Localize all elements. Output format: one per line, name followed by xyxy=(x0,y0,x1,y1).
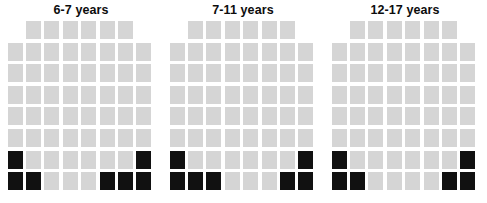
waffle-cell-empty xyxy=(332,43,347,61)
waffle-cell-empty xyxy=(460,129,475,147)
panel-title: 12-17 years xyxy=(370,3,439,17)
waffle-cell-empty xyxy=(225,86,240,104)
waffle-cell-empty xyxy=(170,86,185,104)
waffle-cell-empty xyxy=(63,43,78,61)
waffle-cell-empty xyxy=(225,107,240,125)
waffle-cell-empty xyxy=(188,151,203,169)
waffle-cell-empty xyxy=(118,21,133,39)
waffle-cell-empty xyxy=(44,129,59,147)
waffle-cell-empty xyxy=(298,64,313,82)
waffle-cell-empty xyxy=(368,107,383,125)
waffle-cell-filled xyxy=(442,172,457,190)
waffle-cell-empty xyxy=(262,64,277,82)
waffle-cell-empty xyxy=(460,107,475,125)
waffle-cell-empty xyxy=(188,43,203,61)
waffle-cell-empty xyxy=(280,43,295,61)
waffle-cell-filled xyxy=(100,172,115,190)
waffle-grid xyxy=(8,21,155,198)
waffle-cell-empty xyxy=(442,129,457,147)
waffle-cell-empty xyxy=(387,107,402,125)
waffle-cell-empty xyxy=(26,43,41,61)
waffle-cell-empty xyxy=(8,107,23,125)
waffle-cell-empty xyxy=(368,64,383,82)
waffle-cell-empty xyxy=(26,21,41,39)
waffle-cell-empty xyxy=(387,86,402,104)
waffle-cell-empty xyxy=(442,151,457,169)
waffle-cell-empty xyxy=(81,129,96,147)
waffle-cell-empty xyxy=(442,21,457,39)
waffle-cell-filled xyxy=(350,172,365,190)
waffle-panel-2: 12-17 years xyxy=(324,0,486,203)
waffle-cell-filled xyxy=(170,172,185,190)
waffle-cell-empty xyxy=(350,151,365,169)
waffle-cell-empty xyxy=(118,129,133,147)
waffle-cell-empty xyxy=(26,151,41,169)
waffle-cell-empty xyxy=(188,21,203,39)
waffle-cell-empty xyxy=(405,43,420,61)
waffle-cell-filled xyxy=(460,172,475,190)
waffle-cell-empty xyxy=(118,151,133,169)
waffle-cell-empty xyxy=(424,21,439,39)
waffle-cell-empty xyxy=(405,64,420,82)
waffle-cell-empty xyxy=(332,129,347,147)
waffle-cell-empty xyxy=(118,43,133,61)
waffle-cell-empty xyxy=(170,64,185,82)
waffle-cell-filled xyxy=(298,151,313,169)
waffle-cell-empty xyxy=(136,64,151,82)
waffle-cell-empty xyxy=(350,107,365,125)
waffle-cell-empty xyxy=(100,151,115,169)
waffle-cell-empty xyxy=(424,86,439,104)
waffle-cell-empty xyxy=(188,86,203,104)
waffle-cell-empty xyxy=(405,129,420,147)
waffle-cell-empty xyxy=(424,151,439,169)
waffle-cell-empty xyxy=(81,107,96,125)
waffle-cell-filled xyxy=(136,151,151,169)
waffle-cell-empty xyxy=(118,64,133,82)
waffle-cell-empty xyxy=(298,129,313,147)
waffle-cell-empty xyxy=(225,43,240,61)
waffle-cell-empty xyxy=(243,64,258,82)
waffle-cell-empty xyxy=(81,43,96,61)
waffle-cell-empty xyxy=(243,86,258,104)
waffle-cell-empty xyxy=(405,21,420,39)
waffle-cell-empty xyxy=(332,86,347,104)
waffle-cell-empty xyxy=(387,172,402,190)
waffle-cell-empty xyxy=(44,21,59,39)
waffle-cell-empty xyxy=(262,21,277,39)
waffle-cell-empty xyxy=(368,172,383,190)
waffle-cell-empty xyxy=(188,129,203,147)
waffle-panel-1: 7-11 years xyxy=(162,0,324,203)
waffle-cell-filled xyxy=(8,151,23,169)
waffle-cell-empty xyxy=(100,64,115,82)
waffle-cell-empty xyxy=(170,107,185,125)
waffle-cell-empty xyxy=(280,129,295,147)
waffle-cell-empty xyxy=(387,151,402,169)
waffle-cell-empty xyxy=(262,43,277,61)
waffle-cell-empty xyxy=(225,172,240,190)
waffle-cell-empty xyxy=(136,107,151,125)
waffle-cell-empty xyxy=(44,151,59,169)
waffle-cell-filled xyxy=(188,172,203,190)
waffle-cell-empty xyxy=(405,151,420,169)
waffle-cell-empty xyxy=(243,151,258,169)
waffle-cell-filled xyxy=(280,172,295,190)
waffle-cell-empty xyxy=(136,43,151,61)
waffle-cell-empty xyxy=(206,64,221,82)
waffle-cell-empty xyxy=(280,107,295,125)
waffle-cell-empty xyxy=(387,43,402,61)
waffle-cell-empty xyxy=(44,86,59,104)
waffle-cell-empty xyxy=(100,129,115,147)
waffle-cell-filled xyxy=(8,172,23,190)
waffle-cell-empty xyxy=(424,129,439,147)
waffle-cell-empty xyxy=(170,43,185,61)
waffle-cell-empty xyxy=(225,129,240,147)
waffle-cell-empty xyxy=(44,107,59,125)
panel-title: 6-7 years xyxy=(53,3,108,17)
waffle-cell-filled xyxy=(26,172,41,190)
waffle-cell-empty xyxy=(280,86,295,104)
waffle-cell-empty xyxy=(405,107,420,125)
waffle-cell-empty xyxy=(206,21,221,39)
waffle-cell-empty xyxy=(424,64,439,82)
waffle-cell-filled xyxy=(118,172,133,190)
waffle-cell-empty xyxy=(100,107,115,125)
